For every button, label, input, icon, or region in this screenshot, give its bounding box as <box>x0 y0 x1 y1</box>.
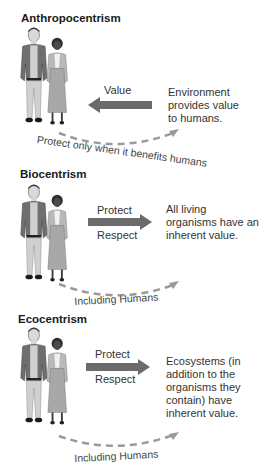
panel-title: Anthropocentrism <box>21 12 121 24</box>
panel-description: Environment provides value to humans. <box>168 86 239 125</box>
panel-title: Biocentrism <box>20 168 86 180</box>
arrow-label-value: Value <box>104 84 131 96</box>
arrow-right-icon <box>88 214 153 230</box>
people-illustration <box>18 326 74 430</box>
panel-description: All living organisms have an inherent va… <box>166 203 259 242</box>
people-illustration <box>18 183 74 287</box>
panel-biocentrism: Biocentrism Protect Respect All living o… <box>0 155 273 310</box>
arrow-label-respect: Respect <box>95 373 135 385</box>
people-illustration <box>18 26 74 130</box>
panel-ecocentrism: Ecocentrism Protect Respect Ecosystems (… <box>0 310 273 473</box>
panel-anthropocentrism: Anthropocentrism Value Environment provi… <box>0 0 273 155</box>
arrow-label-respect: Respect <box>97 229 137 241</box>
arrow-left-icon <box>88 97 153 113</box>
panel-title: Ecocentrism <box>18 313 87 325</box>
panel-description: Ecosystems (in addition to the organisms… <box>166 355 241 420</box>
